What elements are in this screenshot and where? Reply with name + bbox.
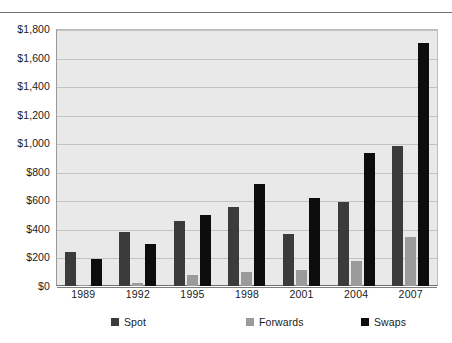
bar-swaps-1995 (200, 215, 211, 286)
bar-swaps-1989 (91, 259, 102, 286)
bar-spot-1995 (174, 221, 185, 286)
bar-forwards-2004 (351, 261, 362, 286)
legend-label-forwards: Forwards (259, 316, 304, 328)
y-axis-tick-label: $1,800 (17, 23, 50, 35)
bar-group (56, 29, 111, 286)
legend-label-spot: Spot (124, 316, 146, 328)
x-axis-tick-label-1998: 1998 (235, 288, 259, 300)
bar-spot-2007 (392, 146, 403, 286)
bar-forwards-2007 (405, 237, 416, 286)
bar-group (111, 29, 166, 286)
legend-item-swaps[interactable]: Swaps (361, 316, 406, 328)
y-axis-tick-label: $1,600 (17, 52, 50, 64)
bar-group (274, 29, 329, 286)
bar-spot-1989 (65, 252, 76, 286)
bar-group (165, 29, 220, 286)
bar-swaps-2007 (418, 43, 429, 286)
bars-layer (56, 29, 438, 286)
x-axis-tick-label-1992: 1992 (126, 288, 150, 300)
legend-label-swaps: Swaps (374, 316, 406, 328)
x-axis-tick-label-1995: 1995 (180, 288, 204, 300)
y-axis-tick-label: $400 (26, 223, 50, 235)
chart-legend: SpotForwardsSwaps (56, 316, 438, 332)
y-axis-tick-label: $1,400 (17, 80, 50, 92)
bar-forwards-1989 (78, 285, 89, 286)
x-axis-tick-label-2007: 2007 (399, 288, 423, 300)
legend-swatch-spot (111, 318, 119, 326)
y-axis-tick-label: $600 (26, 194, 50, 206)
bar-swaps-2004 (364, 153, 375, 286)
legend-swatch-forwards (246, 318, 254, 326)
bar-forwards-2001 (296, 270, 307, 286)
legend-item-forwards[interactable]: Forwards (246, 316, 304, 328)
x-axis-tick-label-2004: 2004 (344, 288, 368, 300)
bar-swaps-2001 (309, 198, 320, 286)
x-axis-tick-label-2001: 2001 (289, 288, 313, 300)
bar-group (220, 29, 275, 286)
bar-swaps-1992 (145, 244, 156, 286)
bar-spot-2004 (338, 202, 349, 286)
bar-swaps-1998 (254, 184, 265, 286)
x-axis-tick-label-1989: 1989 (71, 288, 95, 300)
page-top-rule (0, 12, 452, 13)
bar-group (383, 29, 438, 286)
y-axis-tick-label: $1,000 (17, 137, 50, 149)
legend-item-spot[interactable]: Spot (111, 316, 146, 328)
y-axis-tick-label: $0 (38, 280, 50, 292)
bar-spot-2001 (283, 234, 294, 286)
bar-forwards-1998 (241, 272, 252, 286)
x-axis-labels: 1989199219951998200120042007 (56, 288, 438, 306)
bar-group (329, 29, 384, 286)
bar-spot-1992 (119, 232, 130, 286)
bar-spot-1998 (228, 207, 239, 286)
y-axis-tick-label: $800 (26, 166, 50, 178)
y-axis-tick-label: $200 (26, 251, 50, 263)
legend-swatch-swaps (361, 318, 369, 326)
y-axis-labels: $0$200$400$600$800$1,000$1,200$1,400$1,6… (0, 29, 50, 286)
chart-figure: $0$200$400$600$800$1,000$1,200$1,400$1,6… (0, 0, 452, 343)
bar-forwards-1995 (187, 275, 198, 286)
y-axis-tick-label: $1,200 (17, 109, 50, 121)
bar-forwards-1992 (132, 283, 143, 286)
